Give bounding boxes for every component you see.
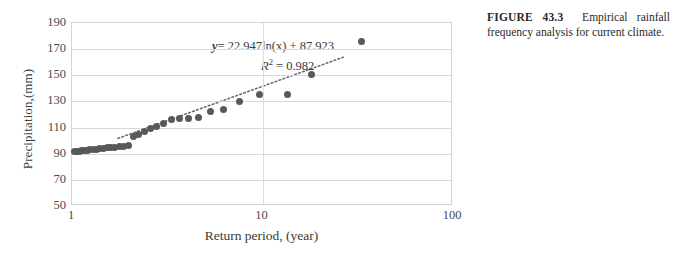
x-axis-title: Return period, (year) — [71, 228, 452, 244]
data-point — [125, 142, 132, 149]
y-tick-label: 130 — [36, 93, 66, 107]
gridline-vertical — [263, 23, 264, 204]
y-axis-tick-labels: 507090110130150170190 — [36, 14, 66, 212]
gridline-horizontal — [72, 154, 451, 155]
data-point — [185, 115, 192, 122]
y-tick-label: 90 — [36, 146, 66, 160]
data-point — [168, 116, 175, 123]
figure-caption: FIGURE 43.3 Empirical rainfall frequency… — [487, 10, 670, 40]
y-tick-label: 150 — [36, 67, 66, 81]
figure-caption-label: FIGURE 43.3 — [487, 11, 563, 23]
regression-equation-annotation: y= 22.947ln(x) + 87.923 — [212, 39, 334, 54]
data-point — [358, 38, 365, 45]
figure-chart: Precipitation,(mm) 507090110130150170190… — [0, 0, 470, 261]
data-point — [207, 108, 214, 115]
x-axis-tick-labels: 110100 — [71, 208, 452, 226]
data-point — [220, 106, 227, 113]
data-point — [308, 71, 315, 78]
x-tick-label: 1 — [68, 208, 74, 223]
y-tick-label: 50 — [36, 198, 66, 212]
y-tick-label: 110 — [36, 120, 66, 134]
x-tick-label: 10 — [255, 208, 268, 223]
plot-area: y= 22.947ln(x) + 87.923 R2 = 0.982 — [71, 22, 452, 205]
y-tick-label: 170 — [36, 41, 66, 55]
data-point — [284, 91, 291, 98]
data-point — [160, 120, 167, 127]
figure-caption-text-spacer — [563, 11, 582, 23]
r-squared-annotation: R2 = 0.982 — [261, 57, 314, 74]
y-tick-label: 190 — [36, 15, 66, 29]
data-point — [176, 115, 183, 122]
gridline-horizontal — [72, 49, 451, 50]
y-tick-label: 70 — [36, 172, 66, 186]
gridline-horizontal — [72, 75, 451, 76]
gridline-horizontal — [72, 101, 451, 102]
data-point — [236, 98, 243, 105]
data-point — [195, 114, 202, 121]
gridline-horizontal — [72, 128, 451, 129]
gridline-horizontal — [72, 180, 451, 181]
x-tick-label: 100 — [443, 208, 462, 223]
